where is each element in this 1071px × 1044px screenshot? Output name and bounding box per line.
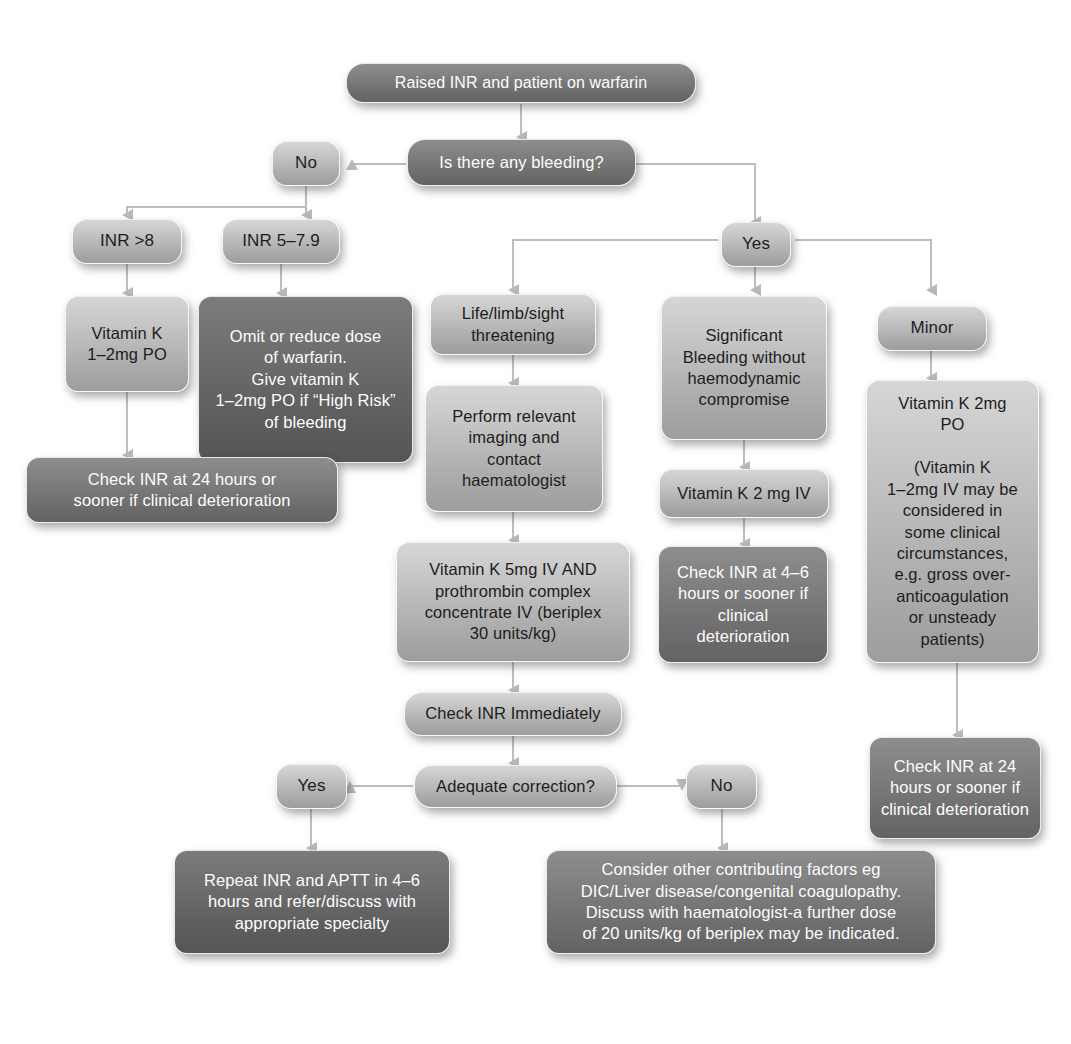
- node-check-inr-4-6h-label: Check INR at 4–6 hours or sooner if clin…: [677, 562, 809, 648]
- node-bleeding-question: Is there any bleeding?: [407, 139, 636, 186]
- node-vitamin-k-2mg-po-label: Vitamin K 2mg PO (Vitamin K 1–2mg IV may…: [887, 393, 1018, 650]
- node-check-inr-24h-right: Check INR at 24 hours or sooner if clini…: [869, 737, 1041, 839]
- node-vitamin-k-2mg-po: Vitamin K 2mg PO (Vitamin K 1–2mg IV may…: [866, 380, 1039, 663]
- node-answer-yes: Yes: [721, 222, 791, 267]
- node-check-inr-24h-left-label: Check INR at 24 hours or sooner if clini…: [74, 469, 291, 512]
- flowchart-canvas: Raised INR and patient on warfarin Is th…: [0, 0, 1071, 1044]
- node-omit-reduce-warfarin-label: Omit or reduce dose of warfarin. Give vi…: [215, 326, 395, 433]
- node-start: Raised INR and patient on warfarin: [346, 63, 696, 103]
- node-start-label: Raised INR and patient on warfarin: [395, 73, 647, 94]
- node-answer-yes-label: Yes: [742, 233, 770, 255]
- node-significant-bleeding: Significant Bleeding without haemodynami…: [661, 296, 827, 440]
- node-vitamin-k-2mg-iv: Vitamin K 2 mg IV: [659, 469, 829, 518]
- node-life-limb-sight: Life/limb/sight threatening: [430, 294, 596, 355]
- node-answer-no-label: No: [295, 152, 317, 174]
- node-repeat-inr-aptt-label: Repeat INR and APTT in 4–6 hours and ref…: [204, 870, 420, 934]
- node-inr-over-8: INR >8: [72, 219, 182, 264]
- node-minor: Minor: [877, 306, 987, 351]
- node-check-inr-24h-right-label: Check INR at 24 hours or sooner if clini…: [881, 756, 1029, 820]
- node-check-inr-4-6h: Check INR at 4–6 hours or sooner if clin…: [658, 546, 828, 663]
- node-adequate-yes-label: Yes: [297, 775, 325, 797]
- node-minor-label: Minor: [910, 317, 953, 339]
- node-inr-5-79: INR 5–7.9: [222, 219, 340, 264]
- node-bleeding-question-label: Is there any bleeding?: [439, 152, 604, 173]
- node-perform-imaging-label: Perform relevant imaging and contact hae…: [452, 406, 576, 492]
- node-consider-other-factors-label: Consider other contributing factors eg D…: [581, 859, 901, 945]
- node-adequate-no-label: No: [711, 775, 733, 797]
- node-vitamin-k-1-2mg-po: Vitamin K 1–2mg PO: [65, 296, 189, 392]
- node-consider-other-factors: Consider other contributing factors eg D…: [546, 850, 936, 954]
- node-vitamin-k-2mg-iv-label: Vitamin K 2 mg IV: [677, 483, 810, 504]
- node-vitamin-k-1-2mg-po-label: Vitamin K 1–2mg PO: [87, 323, 167, 366]
- node-vitamin-k-5mg-pcc: Vitamin K 5mg IV AND prothrombin complex…: [396, 542, 630, 662]
- node-significant-bleeding-label: Significant Bleeding without haemodynami…: [683, 325, 806, 411]
- node-life-limb-sight-label: Life/limb/sight threatening: [462, 303, 564, 346]
- node-check-inr-24h-left: Check INR at 24 hours or sooner if clini…: [26, 457, 338, 523]
- node-check-inr-immediately-label: Check INR Immediately: [425, 703, 600, 724]
- node-adequate-correction: Adequate correction?: [414, 765, 617, 808]
- node-vitamin-k-5mg-pcc-label: Vitamin K 5mg IV AND prothrombin complex…: [425, 559, 602, 645]
- node-perform-imaging: Perform relevant imaging and contact hae…: [425, 385, 603, 512]
- node-adequate-yes: Yes: [276, 764, 347, 809]
- node-answer-no: No: [272, 141, 340, 186]
- node-adequate-correction-label: Adequate correction?: [436, 776, 595, 797]
- node-adequate-no: No: [686, 764, 757, 809]
- node-inr-over-8-label: INR >8: [100, 230, 154, 252]
- node-omit-reduce-warfarin: Omit or reduce dose of warfarin. Give vi…: [198, 296, 413, 463]
- node-repeat-inr-aptt: Repeat INR and APTT in 4–6 hours and ref…: [174, 850, 450, 954]
- node-check-inr-immediately: Check INR Immediately: [404, 692, 622, 736]
- node-inr-5-79-label: INR 5–7.9: [242, 230, 319, 252]
